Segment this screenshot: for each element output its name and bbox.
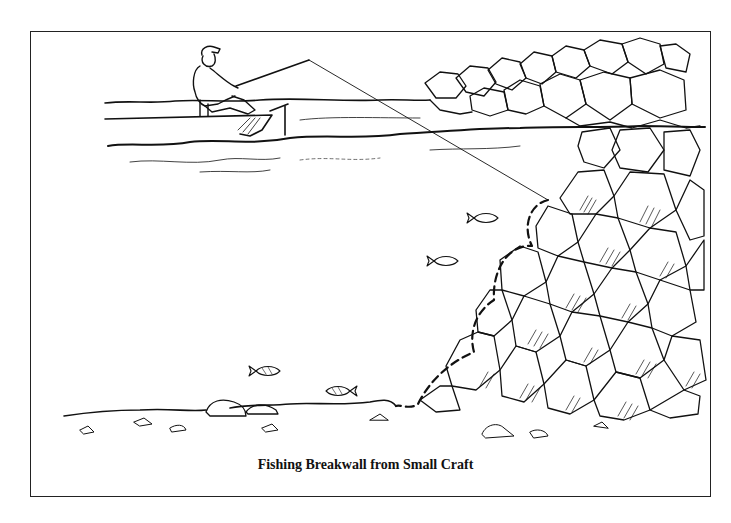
breakwall-illustration (0, 0, 731, 523)
figure-caption: Fishing Breakwall from Small Craft (0, 457, 731, 473)
lake-bottom (64, 400, 608, 438)
breakwall-upper (425, 38, 700, 128)
fish-4 (326, 386, 357, 396)
fishing-rod (236, 60, 548, 200)
water-surface (105, 99, 705, 172)
dashed-retrieve-path (396, 200, 548, 407)
breakwall-lower (420, 128, 706, 420)
fish-2 (427, 256, 458, 266)
fish-1 (467, 213, 498, 223)
fish-3 (249, 366, 280, 376)
boat (105, 104, 288, 136)
fisherman (193, 46, 255, 116)
